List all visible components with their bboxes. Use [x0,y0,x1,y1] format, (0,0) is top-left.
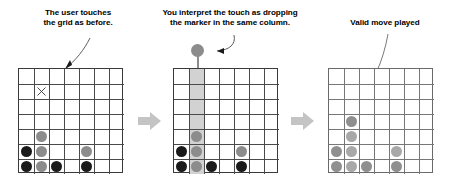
grid-line-horizontal [329,159,434,160]
board-disc-gray [191,146,202,157]
board-disc-black [391,161,402,172]
grid-line-horizontal [329,114,434,115]
floating-marker-head [191,44,204,57]
board-disc-gray [346,146,357,157]
figure-root: The user touches the grid as before. You… [0,0,454,190]
board-disc-black [176,146,187,157]
panel-1-grid[interactable] [18,68,123,173]
board-disc-gray [236,146,247,157]
panel-2-annotation-arrow [204,34,244,60]
board-disc-gray [36,131,47,142]
board-disc-gray [346,161,357,172]
board-disc-black [331,161,342,172]
board-disc-gray [191,161,202,172]
separator-right-arrow-icon-1 [138,112,162,130]
grid-line-horizontal [329,144,434,145]
board-disc-gray [391,146,402,157]
panel-2-caption: You interpret the touch as dropping the … [150,8,310,28]
board-disc-gray [36,161,47,172]
panel-3-grid[interactable] [328,68,433,173]
board-disc-black [21,146,32,157]
grid-line-horizontal [329,99,434,100]
grid-line-horizontal [329,84,434,85]
grid-line-horizontal [174,144,279,145]
board-disc-gray [191,131,202,142]
board-disc-black [236,161,247,172]
grid-line-horizontal [19,129,124,130]
grid-line-horizontal [19,99,124,100]
grid-line-horizontal [174,129,279,130]
floating-marker-stem [197,56,199,68]
board-disc-gray [346,131,357,142]
grid-line-horizontal [19,144,124,145]
grid-line-horizontal [174,114,279,115]
board-disc-black [176,161,187,172]
board-disc-black [346,116,357,127]
board-disc-gray [81,146,92,157]
separator-right-arrow-icon-2 [291,112,315,130]
grid-line-horizontal [174,84,279,85]
grid-line-horizontal [174,99,279,100]
panel-3-caption: Valid move played [322,18,448,28]
board-disc-black [81,161,92,172]
panel-1-caption: The user touches the grid as before. [8,8,148,28]
touch-x-mark-icon [34,84,49,99]
board-disc-black [51,161,62,172]
board-disc-black [331,146,342,157]
grid-line-horizontal [174,159,279,160]
board-disc-black [21,161,32,172]
board-disc-black [361,161,372,172]
grid-line-horizontal [329,129,434,130]
grid-line-horizontal [19,159,124,160]
panel-2-grid[interactable] [173,68,278,173]
board-disc-gray [36,146,47,157]
grid-line-horizontal [19,114,124,115]
board-disc-black [206,161,217,172]
